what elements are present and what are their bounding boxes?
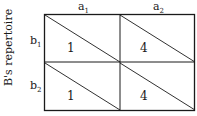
diagonal-b2-a2 (120, 63, 195, 110)
payoff-grid (0, 0, 197, 116)
cell-b2-a1: 1 (67, 89, 75, 103)
cell-b2-a2: 4 (140, 89, 148, 103)
diagonal-b1-a2 (120, 15, 195, 62)
diagonal-b2-a1 (45, 63, 120, 110)
cell-b1-a2: 4 (140, 41, 148, 55)
diagonal-b1-a1 (45, 15, 120, 62)
cell-b1-a1: 1 (67, 41, 75, 55)
